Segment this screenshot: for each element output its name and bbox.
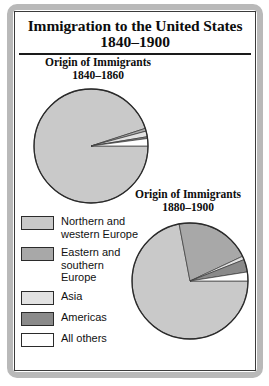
legend-label-eastern-southern-europe: Eastern and southern Europe <box>61 246 120 284</box>
legend-item-asia: Asia <box>21 290 141 305</box>
legend-label-all-others: All others <box>61 332 107 345</box>
pie-2-title: Origin of Immigrants 1880–1900 <box>115 188 256 213</box>
legend-label-asia: Asia <box>61 290 82 303</box>
legend-item-americas: Americas <box>21 311 141 326</box>
legend-item-northern-western-europe: Northern and western Europe <box>21 215 141 240</box>
legend-swatch-northern-western-europe <box>21 216 54 230</box>
pie-1-title-line1: Origin of Immigrants <box>23 56 173 69</box>
pie-1-title-line2: 1840–1860 <box>23 69 173 82</box>
legend-item-all-others: All others <box>21 332 141 347</box>
legend-label-americas: Americas <box>61 311 107 324</box>
pie-2-title-line2: 1880–1900 <box>115 201 256 214</box>
legend-item-eastern-southern-europe: Eastern and southern Europe <box>21 246 141 284</box>
legend-swatch-americas <box>21 312 54 326</box>
legend-swatch-eastern-southern-europe <box>21 247 54 261</box>
pie-chart-1880-1900 <box>129 220 251 342</box>
figure-title: Immigration to the United States 1840–19… <box>15 12 255 50</box>
pie-2-title-line1: Origin of Immigrants <box>115 188 256 201</box>
inner-panel: Immigration to the United States 1840–19… <box>14 11 256 371</box>
figure-title-line2: 1840–1900 <box>21 34 249 50</box>
legend: Northern and western EuropeEastern and s… <box>21 215 141 353</box>
pie-1-title: Origin of Immigrants 1840–1860 <box>23 56 173 81</box>
legend-swatch-asia <box>21 291 54 305</box>
title-divider <box>19 53 251 55</box>
immigration-chart-figure: Immigration to the United States 1840–19… <box>0 0 269 386</box>
legend-swatch-all-others <box>21 333 54 347</box>
legend-label-northern-western-europe: Northern and western Europe <box>61 215 138 240</box>
figure-title-line1: Immigration to the United States <box>21 17 249 34</box>
